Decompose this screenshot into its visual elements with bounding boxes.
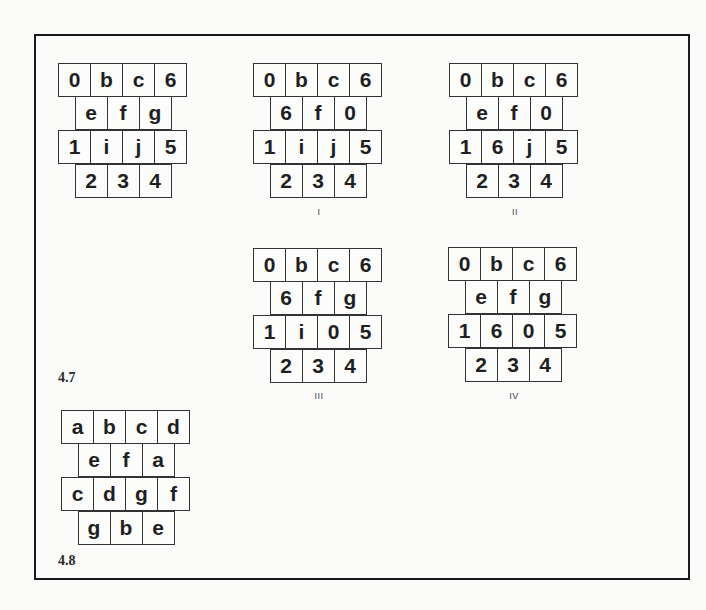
grid-cell: 6 bbox=[270, 96, 303, 130]
grid-cell: g bbox=[125, 477, 158, 511]
grid-cell: 2 bbox=[465, 348, 498, 382]
grid-row: ef0 bbox=[466, 97, 582, 131]
grid-cell: b bbox=[285, 63, 318, 97]
grid-cell: 6 bbox=[481, 130, 514, 164]
grid-cell: 0 bbox=[449, 63, 482, 97]
grid-row: 6f0 bbox=[270, 97, 386, 131]
grid-row: efg bbox=[75, 97, 191, 131]
grid-cell: f bbox=[302, 281, 335, 315]
grid-cell: 1 bbox=[449, 130, 482, 164]
grid-cell: g bbox=[334, 281, 367, 315]
grid-row: 1ij5 bbox=[58, 131, 190, 165]
grid-cell: b bbox=[481, 63, 514, 97]
grid-cell: c bbox=[513, 63, 546, 97]
grid-row: 234 bbox=[466, 165, 582, 199]
grid-cell: e bbox=[466, 96, 499, 130]
grid-row: 1ij5 bbox=[253, 131, 385, 165]
grid-cell: 6 bbox=[545, 63, 578, 97]
grid-cell: f bbox=[107, 96, 140, 130]
grid-row: 234 bbox=[75, 165, 191, 199]
grid-cell: 5 bbox=[349, 130, 382, 164]
grid-cell: e bbox=[78, 443, 111, 477]
grid-cell: 5 bbox=[154, 130, 187, 164]
grid-cell: 1 bbox=[448, 314, 481, 348]
grid-row: 0bc6 bbox=[448, 247, 580, 281]
grid-iii-caption: III bbox=[253, 391, 385, 401]
grid-cell: f bbox=[110, 443, 143, 477]
grid-cell: 0 bbox=[530, 96, 563, 130]
grid-cell: 0 bbox=[448, 247, 481, 281]
grid-cell: a bbox=[61, 410, 94, 444]
grid-cell: 4 bbox=[334, 164, 367, 198]
grid-cell: c bbox=[512, 247, 545, 281]
grid-cell: 5 bbox=[349, 315, 382, 349]
grid-cell: 4 bbox=[139, 164, 172, 198]
grid-row: cdgf bbox=[61, 478, 193, 512]
grid-cell: 0 bbox=[253, 248, 286, 282]
grid-cell: 3 bbox=[107, 164, 140, 198]
grid-cell: i bbox=[285, 315, 318, 349]
grid-cell: g bbox=[529, 280, 562, 314]
grid-row: 1i05 bbox=[253, 316, 385, 350]
grid-cell: j bbox=[122, 130, 155, 164]
grid-original: 0bc6efg1ij5234 bbox=[58, 63, 190, 199]
grid-cell: j bbox=[513, 130, 546, 164]
grid-cell: 0 bbox=[317, 315, 350, 349]
grid-row: 1605 bbox=[448, 315, 580, 349]
grid-cell: 2 bbox=[75, 164, 108, 198]
grid-iv-caption: IV bbox=[448, 391, 580, 401]
grid-cell: f bbox=[498, 96, 531, 130]
grid-cell: 6 bbox=[154, 63, 187, 97]
grid-row: 0bc6 bbox=[449, 63, 581, 97]
grid-row: 0bc6 bbox=[253, 248, 385, 282]
grid-row: 0bc6 bbox=[253, 63, 385, 97]
grid-cell: 6 bbox=[480, 314, 513, 348]
grid-cell: 4 bbox=[529, 348, 562, 382]
grid-cell: 2 bbox=[466, 164, 499, 198]
grid-cell: 0 bbox=[334, 96, 367, 130]
grid-cell: 3 bbox=[302, 164, 335, 198]
grid-cell: b bbox=[480, 247, 513, 281]
grid-cell: a bbox=[142, 443, 175, 477]
grid-cell: 6 bbox=[349, 248, 382, 282]
grid-row: 6fg bbox=[270, 282, 386, 316]
grid-cell: g bbox=[139, 96, 172, 130]
grid-cell: i bbox=[90, 130, 123, 164]
grid-cell: 2 bbox=[270, 164, 303, 198]
grid-4-8: abcdefacdgfgbe bbox=[61, 410, 193, 546]
grid-cell: 4 bbox=[334, 349, 367, 383]
grid-cell: b bbox=[110, 511, 143, 545]
grid-cell: 6 bbox=[270, 281, 303, 315]
grid-row: efg bbox=[465, 281, 581, 315]
grid-cell: f bbox=[302, 96, 335, 130]
grid-row: 234 bbox=[465, 349, 581, 383]
grid-iv: 0bc6efg1605234 bbox=[448, 247, 580, 383]
grid-cell: e bbox=[75, 96, 108, 130]
grid-cell: 0 bbox=[512, 314, 545, 348]
grid-cell: 3 bbox=[302, 349, 335, 383]
grid-cell: 6 bbox=[544, 247, 577, 281]
grid-cell: d bbox=[157, 410, 190, 444]
grid-cell: f bbox=[157, 477, 190, 511]
grid-cell: 3 bbox=[498, 164, 531, 198]
grid-row: abcd bbox=[61, 410, 193, 444]
figure-label-4-8: 4.8 bbox=[58, 553, 76, 569]
grid-cell: 5 bbox=[545, 130, 578, 164]
grid-cell: 3 bbox=[497, 348, 530, 382]
grid-ii: 0bc6ef016j5234 bbox=[449, 63, 581, 199]
grid-cell: c bbox=[317, 248, 350, 282]
grid-cell: c bbox=[317, 63, 350, 97]
grid-cell: 0 bbox=[58, 63, 91, 97]
grid-row: gbe bbox=[78, 512, 194, 546]
grid-cell: b bbox=[90, 63, 123, 97]
grid-cell: e bbox=[142, 511, 175, 545]
grid-cell: c bbox=[125, 410, 158, 444]
grid-ii-caption: II bbox=[449, 207, 581, 217]
grid-cell: 1 bbox=[253, 130, 286, 164]
grid-row: 234 bbox=[270, 350, 386, 384]
grid-cell: g bbox=[78, 511, 111, 545]
grid-cell: 4 bbox=[530, 164, 563, 198]
figure-label-4-7: 4.7 bbox=[58, 370, 76, 386]
grid-i: 0bc66f01ij5234 bbox=[253, 63, 385, 199]
grid-cell: j bbox=[317, 130, 350, 164]
